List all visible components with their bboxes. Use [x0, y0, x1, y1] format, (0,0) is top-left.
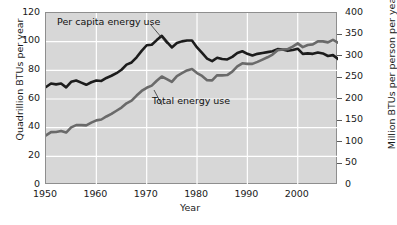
x-tick-label: 1950	[25, 188, 65, 199]
y-right-tick-mark	[337, 98, 342, 99]
y-axis-right-title: Million BTUs per person per year	[386, 0, 397, 167]
y-left-tick-label: 0	[7, 178, 40, 189]
y-right-tick-label: 250	[345, 70, 375, 81]
y-right-tick-mark	[337, 120, 342, 121]
x-tick-label: 1980	[176, 188, 216, 199]
y-right-tick-label: 300	[345, 49, 375, 60]
annotation-per-capita: Per capita energy use	[57, 16, 160, 27]
x-tick-label: 1990	[226, 188, 266, 199]
y-right-tick-label: 350	[345, 27, 375, 38]
y-right-tick-label: 100	[345, 135, 375, 146]
x-tick-label: 1960	[75, 188, 115, 199]
y-right-tick-mark	[337, 34, 342, 35]
y-right-tick-label: 200	[345, 92, 375, 103]
y-right-tick-label: 0	[345, 178, 375, 189]
y-axis-left-title: Quadrillion BTUs per year	[14, 5, 25, 155]
x-axis-title: Year	[150, 202, 230, 213]
series-lines	[46, 36, 338, 136]
y-right-tick-label: 50	[345, 156, 375, 167]
x-tick-label: 1970	[126, 188, 166, 199]
annotation-total: Total energy use	[152, 95, 230, 106]
y-right-tick-mark	[337, 55, 342, 56]
x-tick-label: 2000	[277, 188, 317, 199]
y-right-tick-mark	[337, 163, 342, 164]
y-right-tick-mark	[337, 77, 342, 78]
y-right-tick-label: 150	[345, 113, 375, 124]
y-right-tick-mark	[337, 141, 342, 142]
y-right-tick-label: 400	[345, 6, 375, 17]
